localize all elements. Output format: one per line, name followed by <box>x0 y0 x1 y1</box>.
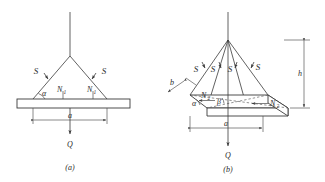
tension-label-3-b: S <box>228 64 233 74</box>
tension-label-1-b: S <box>194 64 199 74</box>
tension-label-4-b: S <box>256 62 261 72</box>
panel-caption-b: (b) <box>223 165 233 174</box>
normal-sub-right-a: 1 <box>94 89 97 95</box>
rope-4-b <box>228 40 268 95</box>
dim-ext-b-top <box>186 78 196 85</box>
tension-label-left-a: S <box>34 66 39 76</box>
normal-sub-left-b: 2 <box>208 95 211 101</box>
tension-arrow-1-b <box>202 62 205 68</box>
normal-label-left-b: N <box>200 91 207 100</box>
slab-front-face-b <box>207 108 288 116</box>
tension-arrow-left-a <box>44 73 48 79</box>
normal-sub-left-a: 1 <box>64 89 67 95</box>
physics-figure: S S α N 1 N 1 a Q (a) <box>0 0 325 182</box>
figure-canvas: S S α N 1 N 1 a Q (a) <box>0 0 325 182</box>
normal-label-left-a: N <box>56 85 63 94</box>
panel-b: S S S S N 2 N 2 α <box>168 12 310 174</box>
tension-label-2-b: S <box>211 64 216 74</box>
weight-label-a: Q <box>67 140 73 149</box>
normal-label-right-b: N <box>269 99 276 108</box>
dim-label-a-width-b: a <box>224 119 228 128</box>
dim-label-h-height: h <box>298 69 302 78</box>
weight-label-b: Q <box>225 151 231 160</box>
dim-label-b-depth: b <box>170 78 174 87</box>
normal-sub-right-b-alt: 2 <box>277 103 280 109</box>
tension-arrow-right-a <box>92 73 96 79</box>
panel-a: S S α N 1 N 1 a Q (a) <box>17 12 130 172</box>
tension-arrow-4-b <box>251 62 254 68</box>
angle-label-alpha-a: α <box>42 89 47 98</box>
angle-label-alpha-b: α <box>192 99 197 108</box>
plate-a <box>17 99 130 108</box>
tension-label-right-a: S <box>102 66 107 76</box>
normal-label-right-a: N <box>86 85 93 94</box>
angle-label-beta-b: β <box>216 97 221 106</box>
panel-caption-a: (a) <box>65 163 75 172</box>
